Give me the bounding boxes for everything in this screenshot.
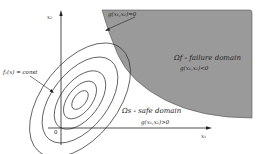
y-axis-arrow-icon	[59, 10, 62, 16]
contour-2	[27, 43, 133, 154]
limit-state-label: g(x₁,x₂)=0	[108, 12, 136, 18]
contour-4	[57, 75, 103, 124]
y-axis-label: x₂	[47, 15, 52, 21]
safe-domain-condition: g(x₁,x₂)>0	[141, 120, 169, 126]
x-axis-arrow-icon	[206, 126, 212, 129]
contour-3	[44, 62, 116, 139]
failure-domain-condition: g(x₁,x₂)<0	[180, 66, 208, 72]
x-axis-label: x₁	[201, 134, 206, 140]
density-contour-label: fₓ(x) = const	[3, 70, 37, 76]
failure-domain-title: Ωf - failure domain	[174, 55, 241, 62]
reliability-diagram	[0, 0, 266, 154]
failure-domain-region	[102, 10, 252, 118]
safe-domain-title: Ωs - safe domain	[122, 108, 181, 115]
origin-label: 0	[54, 130, 58, 136]
